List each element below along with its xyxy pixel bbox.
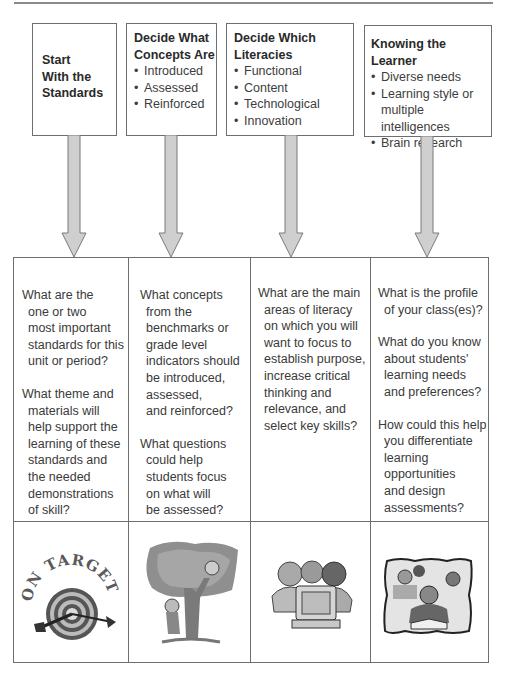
down-arrow-icon	[61, 135, 87, 259]
question-paragraph: What are the one or two most important s…	[22, 287, 124, 370]
down-arrow-icon	[278, 135, 304, 259]
text-line: standards for this	[22, 337, 124, 354]
text-line: of skill?	[22, 502, 124, 519]
text-line: learning	[378, 450, 486, 467]
bullet-item: Assessed	[134, 80, 216, 97]
bullet-item: Technological	[234, 96, 353, 113]
text-line: What is the profile	[378, 285, 486, 302]
text-line: be assessed?	[140, 502, 240, 519]
box-title-line: Decide What	[134, 30, 216, 47]
box-title-line: Knowing the Learner	[371, 36, 491, 69]
box-title-line: Concepts Are	[134, 47, 216, 64]
text-line: demonstrations	[22, 486, 124, 503]
bullet-item: Functional	[234, 63, 353, 80]
text-line: learning of these	[22, 436, 124, 453]
box-decide-literacies: Decide Which Literacies Functional Conte…	[226, 23, 354, 136]
text-line: from the	[140, 304, 240, 321]
text-line: could help	[140, 452, 240, 469]
text-line: increase critical	[258, 368, 365, 385]
bullet-item: Diverse needs	[371, 69, 491, 86]
box-title-line: Decide Which	[234, 30, 353, 47]
text-line: students focus	[140, 469, 240, 486]
text-line: unit or period?	[22, 353, 124, 370]
text-line: help support the	[22, 419, 124, 436]
text-line: materials will	[22, 403, 124, 420]
text-line: be introduced,	[140, 370, 240, 387]
text-line: one or two	[22, 304, 124, 321]
text-line: relevance, and	[258, 401, 365, 418]
column-divider	[128, 257, 129, 663]
text-line: assessments?	[378, 500, 486, 517]
bullet-item: Reinforced	[134, 96, 216, 113]
text-line: indicators should	[140, 353, 240, 370]
student-reading-classroom-icon	[381, 555, 475, 637]
text-line: standards and	[22, 452, 124, 469]
questions-literacies: What are the main areas of literacy on w…	[258, 285, 365, 450]
text-line: grade level	[140, 337, 240, 354]
bullet-item: Content	[234, 80, 353, 97]
text-line: you differentiate	[378, 433, 486, 450]
box-title-line: Start	[42, 52, 116, 69]
text-line: How could this help	[378, 417, 486, 434]
question-paragraph: What questions could help students focus…	[140, 436, 240, 519]
bullet-item: Learning style or	[371, 86, 491, 103]
question-paragraph: What is the profile of your class(es)?	[378, 285, 486, 318]
questions-concepts: What concepts from the benchmarks or gra…	[140, 287, 240, 535]
text-line: about students'	[378, 351, 486, 368]
text-line: What are the	[22, 287, 124, 304]
text-line: thinking and	[258, 385, 365, 402]
box-title-line: Literacies	[234, 47, 353, 64]
text-line: assessed,	[140, 387, 240, 404]
box-title-line: Standards	[42, 85, 116, 102]
question-paragraph: What are the main areas of literacy on w…	[258, 285, 365, 434]
text-line: What do you know	[378, 334, 486, 351]
box-start-with-standards: Start With the Standards	[32, 23, 117, 136]
questions-learner: What is the profile of your class(es)? W…	[378, 285, 486, 532]
text-line: benchmarks or	[140, 320, 240, 337]
text-line: on what will	[140, 486, 240, 503]
column-divider	[250, 257, 251, 663]
text-line: and reinforced?	[140, 403, 240, 420]
text-line: and design	[378, 483, 486, 500]
down-arrow-icon	[158, 135, 184, 259]
bullet-item: Introduced	[134, 63, 216, 80]
box-decide-concepts: Decide What Concepts Are Introduced Asse…	[126, 23, 217, 136]
text-line: the needed	[22, 469, 124, 486]
text-line: most important	[22, 320, 124, 337]
kids-at-computer-icon	[262, 560, 362, 632]
bullet-list: Introduced Assessed Reinforced	[134, 63, 216, 113]
text-line: of your class(es)?	[378, 302, 486, 319]
text-line: and preferences?	[378, 384, 486, 401]
text-line: on which you will	[258, 318, 365, 335]
text-line: opportunities	[378, 466, 486, 483]
text-line: What questions	[140, 436, 240, 453]
text-line: What are the main	[258, 285, 365, 302]
question-paragraph: What theme and materials will help suppo…	[22, 386, 124, 519]
bullet-list: Functional Content Technological Innovat…	[234, 63, 353, 129]
box-title-line: With the	[42, 69, 116, 86]
text-line: learning needs	[378, 367, 486, 384]
text-line: What concepts	[140, 287, 240, 304]
question-paragraph: What concepts from the benchmarks or gra…	[140, 287, 240, 420]
column-divider	[370, 257, 371, 663]
down-arrow-icon	[414, 136, 440, 259]
text-line: establish purpose,	[258, 351, 365, 368]
bullet-item-continuation: multiple intelligences	[371, 102, 491, 135]
box-knowing-learner: Knowing the Learner Diverse needs Learni…	[364, 25, 492, 137]
questions-standards: What are the one or two most important s…	[22, 287, 124, 535]
text-line: What theme and	[22, 386, 124, 403]
text-line: select key skills?	[258, 418, 365, 435]
question-paragraph: What do you know about students' learnin…	[378, 334, 486, 400]
question-paragraph: How could this help you differentiate le…	[378, 417, 486, 517]
bullet-item: Innovation	[234, 113, 353, 130]
top-rule	[14, 2, 493, 4]
text-line: want to focus to	[258, 335, 365, 352]
text-line: areas of literacy	[258, 302, 365, 319]
kids-climbing-tree-icon	[140, 538, 240, 650]
on-target-dartboard-icon: ON TARGET	[20, 552, 120, 642]
